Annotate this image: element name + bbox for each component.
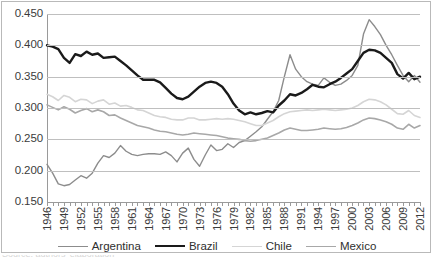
x-tick-label: 1988 (278, 207, 290, 231)
y-tick-label: 0.250 (1, 133, 43, 144)
series-line-brazil (47, 45, 420, 114)
x-tick-label: 1979 (228, 207, 240, 231)
x-tick-label: 1997 (329, 207, 341, 231)
y-tick-label: 0.400 (1, 39, 43, 50)
legend-swatch-mexico (306, 246, 336, 247)
x-tick-label: 1976 (211, 207, 223, 231)
x-tick-label: 1970 (177, 207, 189, 231)
legend-label: Argentina (92, 240, 141, 252)
legend-label: Brazil (189, 240, 218, 252)
gridline-y (47, 77, 420, 78)
x-tick-label: 1967 (160, 207, 172, 231)
x-tick-label: 1985 (261, 207, 273, 231)
caption-cutoff-text: Source: authors' elaboration (2, 255, 262, 259)
x-tick-label: 1949 (58, 207, 70, 231)
legend-item-brazil[interactable]: Brazil (155, 240, 218, 252)
legend-swatch-chile (232, 246, 262, 247)
y-axis-labels: 0.4500.4000.3500.3000.2500.2000.150 (2, 2, 43, 202)
y-tick-label: 0.450 (1, 8, 43, 19)
legend-label: Chile (266, 240, 292, 252)
x-tick-label: 2000 (346, 207, 358, 231)
chart-frame: 0.4500.4000.3500.3000.2500.2000.150 1946… (1, 1, 431, 253)
y-tick-label: 0.200 (1, 165, 43, 176)
legend-item-mexico[interactable]: Mexico (306, 240, 376, 252)
legend-label: Mexico (340, 240, 376, 252)
x-tick-label: 1991 (295, 207, 307, 231)
series-line-mexico (47, 105, 420, 141)
gridline-y (47, 14, 420, 15)
gridline-y (47, 45, 420, 46)
gridline-y (47, 108, 420, 109)
legend-swatch-argentina (58, 246, 88, 247)
legend-item-argentina[interactable]: Argentina (58, 240, 141, 252)
x-tick-label: 1982 (244, 207, 256, 231)
y-tick-label: 0.300 (1, 102, 43, 113)
chart-legend: ArgentinaBrazilChileMexico (2, 238, 432, 254)
x-tick-mark (420, 202, 421, 206)
x-tick-label: 2006 (380, 207, 392, 231)
x-tick-label: 1955 (92, 207, 104, 231)
x-axis-labels: 1946194919521955195819611964196719701973… (47, 202, 420, 242)
x-tick-label: 1964 (143, 207, 155, 231)
x-tick-label: 1973 (194, 207, 206, 231)
x-tick-label: 2012 (414, 207, 426, 231)
x-tick-label: 1952 (75, 207, 87, 231)
series-line-chile (47, 94, 420, 125)
x-tick-label: 1946 (41, 207, 53, 231)
plot-area (47, 14, 420, 202)
x-tick-label: 1961 (126, 207, 138, 231)
x-tick-label: 2009 (397, 207, 409, 231)
gridline-y (47, 139, 420, 140)
y-tick-label: 0.350 (1, 71, 43, 82)
y-tick-label: 0.150 (1, 196, 43, 207)
legend-swatch-brazil (155, 245, 185, 247)
x-tick-label: 1994 (312, 207, 324, 231)
caption-cutoff: Source: authors' elaboration (2, 255, 262, 263)
x-tick-label: 1958 (109, 207, 121, 231)
legend-item-chile[interactable]: Chile (232, 240, 292, 252)
chart-figure: 0.4500.4000.3500.3000.2500.2000.150 1946… (0, 0, 434, 264)
gridline-y (47, 171, 420, 172)
x-tick-label: 2003 (363, 207, 375, 231)
